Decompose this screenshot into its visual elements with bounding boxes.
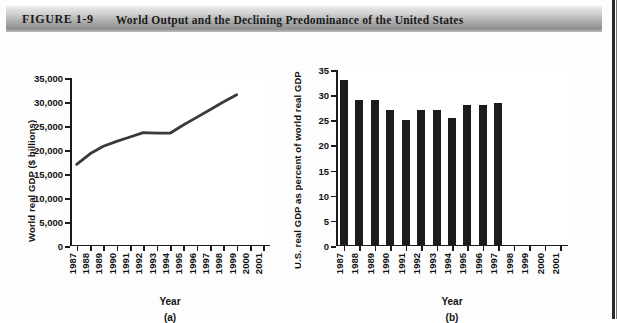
panel-a-data-line xyxy=(70,78,270,246)
y-tick xyxy=(331,120,336,122)
bar xyxy=(494,103,502,246)
x-tick-label: 1990 xyxy=(106,253,117,274)
y-tick-label: 5 xyxy=(324,215,329,226)
x-tick xyxy=(117,246,119,251)
x-tick xyxy=(560,246,562,251)
bar xyxy=(355,100,363,246)
y-tick xyxy=(331,145,336,147)
x-tick xyxy=(467,246,469,251)
x-tick-label: 2001 xyxy=(550,253,561,274)
y-tick xyxy=(331,221,336,223)
x-tick-label: 1995 xyxy=(457,253,468,274)
x-tick xyxy=(170,246,172,251)
panel-b-y-axis-label: U.S. real GDP as percent of world real G… xyxy=(292,54,303,269)
panel-b-plot-area: 05101520253035 1987198819891990199119921… xyxy=(336,70,568,246)
y-tick-label: 20,000 xyxy=(34,145,63,156)
bar xyxy=(479,105,487,246)
x-tick xyxy=(263,246,265,251)
x-tick xyxy=(514,246,516,251)
x-tick xyxy=(483,246,485,251)
y-tick-label: 25,000 xyxy=(34,121,63,132)
figure-number-label: FIGURE 1-9 xyxy=(22,12,94,27)
x-tick-label: 1991 xyxy=(395,253,406,274)
y-tick-label: 5,000 xyxy=(39,217,63,228)
x-tick xyxy=(130,246,132,251)
x-tick xyxy=(344,246,346,251)
y-tick-label: 10 xyxy=(318,190,329,201)
panel-a-line-chart: World real GDP ($ billions) 05,00010,000… xyxy=(8,40,302,315)
x-tick-label: 1988 xyxy=(80,253,91,274)
bar xyxy=(463,105,471,246)
x-tick-label: 1993 xyxy=(146,253,157,274)
bar xyxy=(340,80,348,246)
x-tick-label: 1997 xyxy=(200,253,211,274)
x-tick-label: 1996 xyxy=(186,253,197,274)
bar xyxy=(448,118,456,246)
panel-b-bar-chart: U.S. real GDP as percent of world real G… xyxy=(290,40,610,315)
x-tick xyxy=(375,246,377,251)
panel-b-caption: (b) xyxy=(336,312,568,323)
y-tick xyxy=(65,246,70,248)
x-tick xyxy=(359,246,361,251)
y-tick-label: 30 xyxy=(318,90,329,101)
x-tick xyxy=(90,246,92,251)
y-tick-label: 10,000 xyxy=(34,193,63,204)
y-tick-label: 0 xyxy=(324,241,329,252)
page-right-rule xyxy=(612,0,615,319)
x-tick xyxy=(157,246,159,251)
x-tick-label: 1997 xyxy=(488,253,499,274)
panel-a-plot-area: 05,00010,00015,00020,00025,00030,00035,0… xyxy=(70,78,270,246)
bar xyxy=(433,110,441,246)
x-tick-label: 1987 xyxy=(66,253,77,274)
figure-title: World Output and the Declining Predomina… xyxy=(116,14,464,26)
x-tick xyxy=(437,246,439,251)
x-tick-label: 1989 xyxy=(364,253,375,274)
y-tick-label: 30,000 xyxy=(34,97,63,108)
bar xyxy=(371,100,379,246)
x-tick-label: 1996 xyxy=(472,253,483,274)
x-tick xyxy=(77,246,79,251)
bar xyxy=(417,110,425,246)
panel-a-x-axis-label: Year xyxy=(70,296,270,307)
x-tick xyxy=(250,246,252,251)
x-tick-label: 1994 xyxy=(160,253,171,274)
x-tick-label: 1992 xyxy=(411,253,422,274)
x-tick xyxy=(452,246,454,251)
x-tick-label: 1999 xyxy=(226,253,237,274)
y-tick-label: 20 xyxy=(318,140,329,151)
x-tick xyxy=(197,246,199,251)
y-tick-label: 25 xyxy=(318,115,329,126)
x-tick xyxy=(103,246,105,251)
y-tick xyxy=(331,196,336,198)
x-tick-label: 1990 xyxy=(380,253,391,274)
x-tick xyxy=(421,246,423,251)
y-tick-label: 35,000 xyxy=(34,73,63,84)
x-tick xyxy=(210,246,212,251)
x-tick xyxy=(237,246,239,251)
y-tick xyxy=(331,95,336,97)
y-tick-label: 0 xyxy=(58,241,63,252)
x-tick-label: 1992 xyxy=(133,253,144,274)
x-tick xyxy=(498,246,500,251)
panel-b-y-axis xyxy=(336,70,338,246)
x-tick xyxy=(390,246,392,251)
x-tick xyxy=(406,246,408,251)
x-tick xyxy=(545,246,547,251)
x-tick-label: 1998 xyxy=(503,253,514,274)
x-tick-label: 1989 xyxy=(93,253,104,274)
x-tick xyxy=(183,246,185,251)
panel-b-x-axis-label: Year xyxy=(336,296,568,307)
figure-header-band: FIGURE 1-9 World Output and the Declinin… xyxy=(6,6,602,32)
x-tick-label: 1987 xyxy=(333,253,344,274)
y-tick xyxy=(331,70,336,72)
x-tick-label: 2001 xyxy=(253,253,264,274)
bar xyxy=(386,110,394,246)
x-tick-label: 1993 xyxy=(426,253,437,274)
x-tick-label: 1988 xyxy=(349,253,360,274)
x-tick-label: 2000 xyxy=(534,253,545,274)
panel-a-caption: (a) xyxy=(70,312,270,323)
x-tick-label: 1998 xyxy=(213,253,224,274)
x-tick-label: 1991 xyxy=(120,253,131,274)
x-tick xyxy=(223,246,225,251)
